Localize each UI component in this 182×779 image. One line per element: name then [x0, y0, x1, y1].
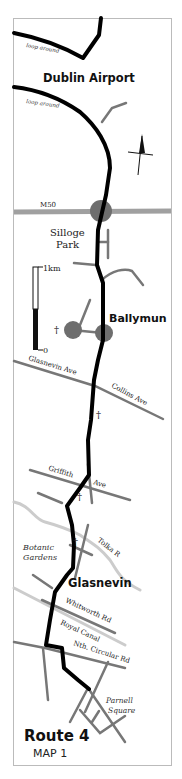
- ballymun-roundabout-west: [64, 321, 82, 339]
- route-map: 1km 0 † † † † Dublin Airport Silloge Par…: [0, 0, 182, 779]
- church-icon: †: [54, 324, 59, 335]
- place-parnell-1: Parnell: [105, 696, 133, 705]
- place-silloge-1: Silloge: [50, 227, 85, 238]
- church-icon: †: [77, 491, 82, 502]
- road-m50: M50: [40, 201, 56, 209]
- place-glasnevin: Glasnevin: [68, 576, 132, 590]
- place-ballymun: Ballymun: [109, 312, 167, 325]
- place-silloge-2: Park: [56, 239, 80, 250]
- map-title: Route 4: [24, 727, 90, 745]
- scale-top-label: 1km: [43, 264, 61, 273]
- church-icon: †: [96, 409, 101, 420]
- place-dublin-airport: Dublin Airport: [43, 71, 135, 85]
- place-botanic-1: Botanic: [22, 543, 54, 552]
- place-botanic-2: Gardens: [23, 553, 57, 562]
- scale-bottom-label: 0: [43, 346, 48, 355]
- place-parnell-2: Square: [108, 706, 136, 715]
- map-subtitle: MAP 1: [33, 747, 67, 760]
- church-icon: †: [73, 536, 78, 547]
